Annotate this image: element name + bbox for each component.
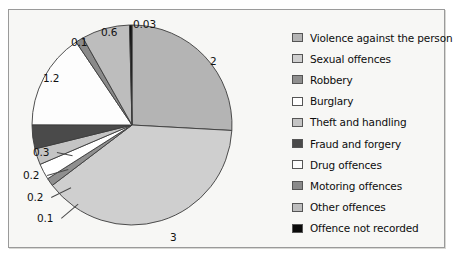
pie-slice-value-label: 0.1 bbox=[37, 212, 53, 224]
chart-legend: Violence against the personSexual offenc… bbox=[292, 27, 442, 239]
pie-chart-figure: 0.030.60.11.20.30.20.20.123 Violence aga… bbox=[0, 0, 455, 260]
pie-slice-value-label: 0.6 bbox=[101, 26, 117, 38]
pie-svg bbox=[27, 18, 237, 233]
chart-frame: 0.030.60.11.20.30.20.20.123 Violence aga… bbox=[8, 9, 445, 248]
legend-item[interactable]: Motoring offences bbox=[292, 175, 442, 196]
legend-swatch-icon bbox=[292, 97, 303, 106]
pie-slice-value-label: 0.2 bbox=[23, 169, 39, 181]
legend-swatch-icon bbox=[292, 181, 303, 190]
legend-item-label: Burglary bbox=[310, 95, 353, 107]
legend-item[interactable]: Robbery bbox=[292, 69, 442, 90]
pie-slice[interactable] bbox=[132, 25, 232, 130]
legend-item[interactable]: Theft and handling bbox=[292, 112, 442, 133]
pie-slice-value-label: 0.2 bbox=[27, 191, 43, 203]
pie-slice-value-label: 1.2 bbox=[43, 72, 59, 84]
legend-swatch-icon bbox=[292, 75, 303, 84]
pie-slice-value-label: 2 bbox=[210, 55, 217, 67]
legend-item-label: Fraud and forgery bbox=[310, 138, 401, 150]
legend-item-label: Offence not recorded bbox=[310, 222, 419, 234]
legend-item[interactable]: Offence not recorded bbox=[292, 218, 442, 239]
pie-slice-value-label: 0.3 bbox=[33, 146, 49, 158]
legend-swatch-icon bbox=[292, 33, 303, 42]
legend-swatch-icon bbox=[292, 118, 303, 127]
legend-swatch-icon bbox=[292, 203, 303, 212]
legend-item[interactable]: Violence against the person bbox=[292, 27, 442, 48]
legend-item[interactable]: Fraud and forgery bbox=[292, 133, 442, 154]
pie-slices bbox=[32, 25, 232, 225]
pie-slice-value-label: 3 bbox=[170, 231, 177, 243]
legend-item-label: Other offences bbox=[310, 201, 386, 213]
legend-item-label: Robbery bbox=[310, 74, 353, 86]
legend-item[interactable]: Sexual offences bbox=[292, 48, 442, 69]
pie-plot-area: 0.030.60.11.20.30.20.20.123 bbox=[9, 10, 249, 249]
legend-item-label: Sexual offences bbox=[310, 53, 391, 65]
pie-slice-value-label: 0.1 bbox=[71, 36, 87, 48]
legend-item[interactable]: Burglary bbox=[292, 91, 442, 112]
legend-item[interactable]: Drug offences bbox=[292, 154, 442, 175]
legend-swatch-icon bbox=[292, 54, 303, 63]
legend-swatch-icon bbox=[292, 139, 303, 148]
legend-swatch-icon bbox=[292, 224, 303, 233]
pie-slice-value-label: 0.03 bbox=[133, 18, 156, 30]
legend-swatch-icon bbox=[292, 160, 303, 169]
legend-item-label: Motoring offences bbox=[310, 180, 402, 192]
legend-item-label: Drug offences bbox=[310, 159, 382, 171]
legend-item[interactable]: Other offences bbox=[292, 197, 442, 218]
legend-item-label: Theft and handling bbox=[310, 116, 406, 128]
legend-item-label: Violence against the person bbox=[310, 32, 452, 44]
